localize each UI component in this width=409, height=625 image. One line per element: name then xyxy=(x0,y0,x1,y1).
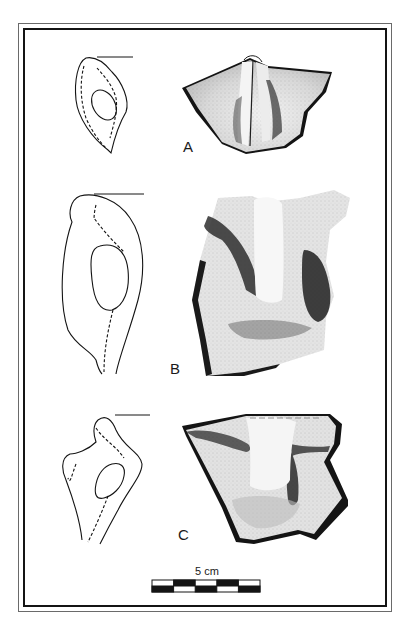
specimen-c-drawing xyxy=(182,414,348,544)
specimen-a-drawing xyxy=(182,56,332,154)
illustration-plate: A B C xyxy=(0,0,409,625)
specimen-label-b: B xyxy=(170,360,180,377)
scale-bar-label: 5 cm xyxy=(195,566,219,577)
specimen-b-drawing xyxy=(192,190,350,376)
specimen-b-profile xyxy=(62,194,144,374)
specimen-label-a: A xyxy=(183,138,193,155)
scale-bar xyxy=(152,580,260,592)
specimen-a-profile xyxy=(75,57,133,153)
specimen-c-profile xyxy=(63,415,150,544)
specimen-label-c: C xyxy=(178,526,189,543)
